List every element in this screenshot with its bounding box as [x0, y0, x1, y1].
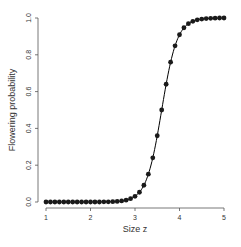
y-tick-label: 0.2: [25, 160, 32, 170]
data-point: [119, 198, 124, 203]
data-point: [146, 172, 151, 177]
data-point: [88, 200, 93, 205]
data-point: [101, 199, 106, 204]
data-point: [150, 155, 155, 160]
x-tick-label: 5: [222, 214, 226, 221]
data-point: [213, 16, 218, 21]
data-point: [155, 133, 160, 138]
data-point: [204, 16, 209, 21]
data-point: [110, 199, 115, 204]
data-point: [115, 199, 120, 204]
data-point: [159, 108, 164, 113]
data-point: [177, 32, 182, 37]
x-tick-label: 4: [178, 214, 182, 221]
axes: 0.00.20.40.60.81.0 12345: [25, 13, 226, 221]
y-tick-label: 1.0: [25, 13, 32, 23]
data-point: [173, 43, 178, 48]
data-points: [44, 16, 227, 205]
data-point: [217, 16, 222, 21]
data-point: [93, 200, 98, 205]
data-point: [128, 196, 133, 201]
data-point: [168, 60, 173, 65]
data-point: [208, 16, 213, 21]
data-point: [106, 199, 111, 204]
data-point: [195, 17, 200, 22]
data-point: [222, 16, 227, 21]
data-point: [182, 25, 187, 30]
y-tick-label: 0.6: [25, 87, 32, 97]
x-tick-label: 3: [133, 214, 137, 221]
data-point: [70, 200, 75, 205]
data-point: [190, 19, 195, 24]
y-tick-label: 0.0: [25, 197, 32, 207]
logistic-curve: [46, 18, 224, 202]
y-tick-label: 0.4: [25, 123, 32, 133]
x-tick-label: 1: [44, 214, 48, 221]
flowering-probability-chart: 0.00.20.40.60.81.0 12345 Size z Flowerin…: [0, 0, 241, 247]
data-point: [186, 21, 191, 26]
data-point: [53, 200, 58, 205]
data-point: [199, 17, 204, 22]
data-point: [57, 200, 62, 205]
x-tick-label: 2: [89, 214, 93, 221]
data-point: [61, 200, 66, 205]
x-ticks: 12345: [44, 208, 226, 221]
data-point: [164, 82, 169, 87]
data-point: [84, 200, 89, 205]
data-point: [66, 200, 71, 205]
y-tick-label: 0.8: [25, 50, 32, 60]
data-point: [75, 200, 80, 205]
x-axis-title: Size z: [123, 224, 148, 234]
data-point: [137, 190, 142, 195]
data-point: [79, 200, 84, 205]
y-ticks: 0.00.20.40.60.81.0: [25, 13, 38, 207]
data-point: [97, 200, 102, 205]
data-point: [48, 200, 53, 205]
y-axis-title: Flowering probability: [7, 68, 17, 151]
data-point: [44, 200, 49, 205]
data-point: [142, 183, 147, 188]
data-point: [133, 194, 138, 199]
data-point: [124, 198, 129, 203]
